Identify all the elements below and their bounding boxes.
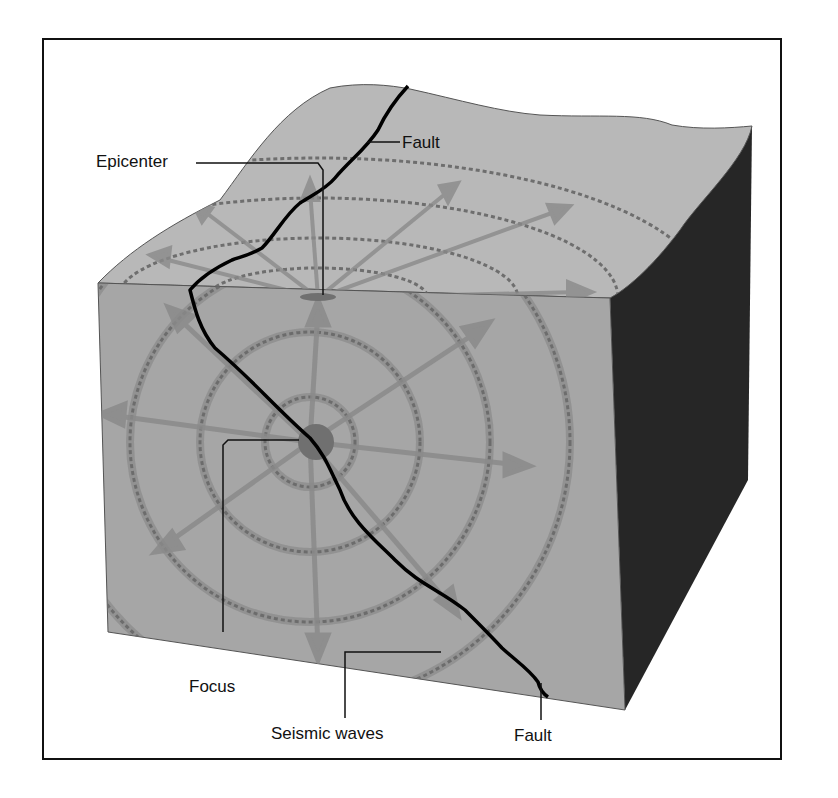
label-fault-top: Fault (402, 134, 440, 151)
label-fault-bottom: Fault (514, 727, 552, 744)
focus-point (298, 424, 334, 460)
epicenter-point (300, 293, 336, 301)
earthquake-block-diagram (0, 0, 838, 798)
label-seismic-waves: Seismic waves (271, 725, 383, 742)
label-epicenter: Epicenter (96, 153, 168, 170)
label-focus: Focus (189, 678, 235, 695)
